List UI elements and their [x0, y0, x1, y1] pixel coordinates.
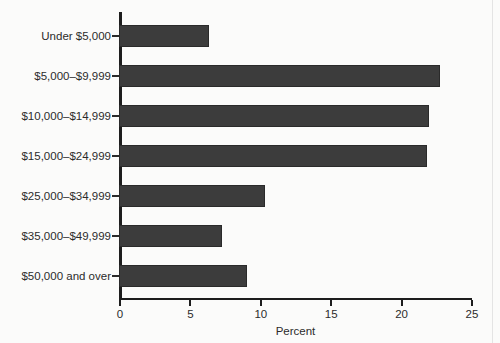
bar-2	[119, 65, 440, 87]
x-axis-line	[119, 298, 472, 300]
y-axis-tick	[112, 235, 119, 237]
x-axis-tick	[260, 300, 262, 306]
bar-fill	[119, 145, 427, 167]
x-axis-tick-label: 15	[311, 308, 351, 320]
x-axis-tick-label: 5	[170, 308, 210, 320]
bar-4	[119, 145, 427, 167]
y-axis-tick	[112, 35, 119, 37]
y-axis-label: $10,000–$14,999	[0, 110, 111, 122]
bar-1	[119, 25, 209, 47]
y-axis-tick	[112, 75, 119, 77]
bar-5	[119, 185, 265, 207]
x-axis-tick	[401, 300, 403, 306]
x-axis-tick	[471, 300, 473, 306]
x-axis-title: Percent	[119, 325, 472, 337]
y-axis-label: $15,000–$24,999	[0, 150, 111, 162]
plot-area	[0, 0, 500, 343]
x-axis-tick-label: 0	[100, 308, 140, 320]
x-axis-tick-label: 25	[452, 308, 492, 320]
y-axis-tick	[112, 275, 119, 277]
x-axis-tick	[119, 300, 121, 306]
y-axis-label: $35,000–$49,999	[0, 230, 111, 242]
x-axis-tick-label: 10	[241, 308, 281, 320]
bar-fill	[119, 185, 265, 207]
y-axis-tick	[112, 195, 119, 197]
bar-fill	[119, 65, 440, 87]
bar-3	[119, 105, 429, 127]
bar-fill	[119, 25, 209, 47]
x-axis-tick	[330, 300, 332, 306]
x-axis-tick-label: 20	[382, 308, 422, 320]
bar-fill	[119, 225, 222, 247]
bar-chart-figure: Percent Under $5,000$5,000–$9,999$10,000…	[0, 0, 500, 343]
y-axis-label: $25,000–$34,999	[0, 190, 111, 202]
y-axis-tick	[112, 155, 119, 157]
y-axis-label: $50,000 and over	[0, 270, 111, 282]
y-axis-label: $5,000–$9,999	[0, 70, 111, 82]
y-axis-tick	[112, 115, 119, 117]
y-axis-label: Under $5,000	[0, 30, 111, 42]
bar-fill	[119, 105, 429, 127]
bar-7	[119, 265, 247, 287]
bar-fill	[119, 265, 247, 287]
x-axis-tick	[189, 300, 191, 306]
bar-6	[119, 225, 222, 247]
